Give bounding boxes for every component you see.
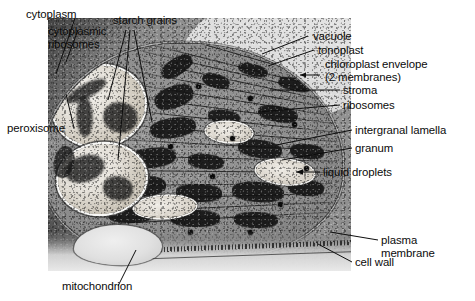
mitochondrion-body (74, 225, 162, 265)
chloroplast-micrograph-figure: cytoplasm cytoplasmic ribosomes starch g… (0, 0, 475, 301)
label-granum: granum (355, 142, 393, 155)
label-cell-wall: cell wall (355, 256, 394, 269)
label-ribosomes: ribosomes (343, 99, 395, 112)
label-chloroplast-envelope: chloroplast envelope (2 membranes) (325, 58, 428, 83)
label-vacuole: vacuole (313, 30, 352, 43)
label-liquid-droplets: liquid droplets (323, 166, 392, 179)
label-tonoplast: tonoplast (318, 44, 363, 57)
label-peroxisome: peroxisome (7, 122, 65, 135)
label-cytoplasmic-ribosomes: cytoplasmic ribosomes (48, 25, 106, 50)
label-cytoplasm: cytoplasm (26, 8, 76, 21)
electron-micrograph-plate (48, 18, 351, 271)
label-starch-grains: starch grains (113, 14, 177, 27)
label-mitochondrion: mitochondrion (62, 280, 132, 293)
label-stroma: stroma (343, 84, 377, 97)
label-intergranal-lamella: intergranal lamella (355, 124, 446, 137)
